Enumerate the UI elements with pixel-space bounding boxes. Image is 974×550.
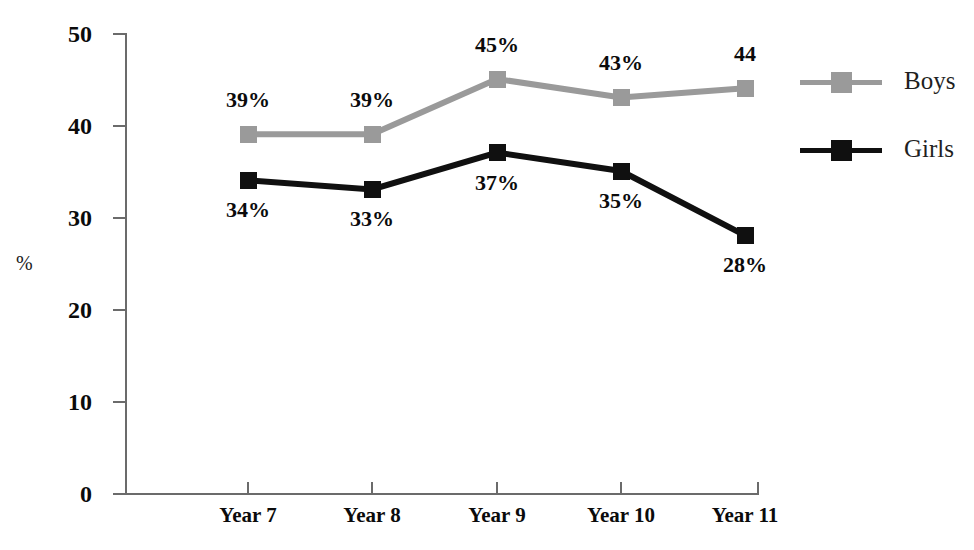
data-label-boys-year-10: 43% bbox=[599, 50, 643, 76]
legend-label-girls: Girls bbox=[904, 135, 954, 163]
data-label-girls-year-7: 34% bbox=[226, 197, 270, 223]
legend-label-boys: Boys bbox=[904, 67, 955, 95]
data-label-boys-year-8: 39% bbox=[350, 87, 394, 113]
data-label-girls-year-10: 35% bbox=[599, 188, 643, 214]
data-label-boys-year-11: 44 bbox=[734, 41, 756, 67]
legend-marker-girls bbox=[831, 140, 852, 161]
legend-item-girls[interactable]: Girls bbox=[800, 126, 974, 194]
marker-girls-year-9 bbox=[489, 144, 506, 161]
marker-boys-year-7 bbox=[240, 126, 257, 143]
data-label-girls-year-9: 37% bbox=[475, 170, 519, 196]
marker-girls-year-11 bbox=[737, 227, 754, 244]
data-label-girls-year-11: 28% bbox=[723, 252, 767, 278]
marker-boys-year-11 bbox=[737, 80, 754, 97]
marker-girls-year-8 bbox=[364, 181, 381, 198]
marker-boys-year-8 bbox=[364, 126, 381, 143]
data-label-girls-year-8: 33% bbox=[350, 206, 394, 232]
marker-girls-year-10 bbox=[613, 163, 630, 180]
data-label-boys-year-7: 39% bbox=[226, 87, 270, 113]
marker-girls-year-7 bbox=[240, 172, 257, 189]
data-label-boys-year-9: 45% bbox=[475, 32, 519, 58]
legend-item-boys[interactable]: Boys bbox=[800, 58, 974, 126]
chart-page: 50 40 30 20 10 0 % Year 7 Year 8 Year 9 … bbox=[0, 0, 974, 550]
marker-boys-year-9 bbox=[489, 71, 506, 88]
legend-marker-boys bbox=[831, 72, 852, 93]
legend: Boys Girls bbox=[800, 58, 974, 194]
marker-boys-year-10 bbox=[613, 89, 630, 106]
